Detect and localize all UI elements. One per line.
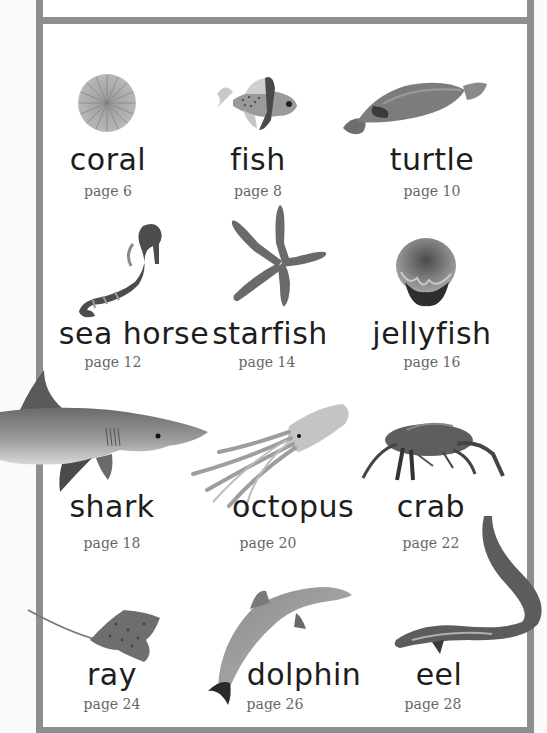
entry-word: shark bbox=[69, 489, 154, 524]
entry-page: page 20 bbox=[240, 535, 297, 551]
entry-word: turtle bbox=[390, 142, 475, 177]
entry-word: octopus bbox=[232, 489, 354, 524]
entry-word: sea horse bbox=[59, 316, 209, 351]
entry-word: eel bbox=[416, 657, 463, 692]
entry-page: page 26 bbox=[247, 696, 304, 712]
fish-image bbox=[215, 72, 300, 134]
entry-page: page 6 bbox=[84, 183, 132, 199]
entry-page: page 16 bbox=[404, 354, 461, 370]
upper-panel-remnant bbox=[43, 0, 527, 17]
entry-page: page 12 bbox=[85, 354, 142, 370]
coral-image bbox=[77, 73, 137, 133]
entry-word: starfish bbox=[212, 316, 328, 351]
turtle-image bbox=[343, 78, 488, 140]
frame-top-divider bbox=[36, 17, 534, 24]
entry-page: page 18 bbox=[84, 535, 141, 551]
entry-page: page 10 bbox=[404, 183, 461, 199]
sea-horse-image bbox=[73, 218, 168, 318]
crab-image bbox=[357, 420, 507, 480]
eel-image bbox=[392, 512, 547, 654]
entry-word: dolphin bbox=[247, 657, 362, 692]
entry-word: coral bbox=[70, 142, 146, 177]
entry-word: jellyfish bbox=[372, 316, 491, 351]
frame-bottom-border bbox=[36, 727, 534, 733]
entry-word: fish bbox=[230, 142, 286, 177]
page-background: coral page 6 fish page 8 turtle page 10 bbox=[0, 0, 547, 733]
ray-image bbox=[28, 610, 160, 662]
shark-image bbox=[0, 370, 210, 495]
starfish-image bbox=[228, 203, 328, 308]
entry-page: page 14 bbox=[239, 354, 296, 370]
entry-word: ray bbox=[87, 657, 137, 692]
entry-page: page 24 bbox=[84, 696, 141, 712]
jellyfish-image bbox=[395, 236, 457, 308]
entry-page: page 28 bbox=[405, 696, 462, 712]
entry-page: page 8 bbox=[234, 183, 282, 199]
